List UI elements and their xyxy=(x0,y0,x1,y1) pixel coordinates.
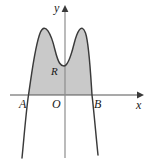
figure-canvas xyxy=(0,0,153,163)
y-axis-arrow-icon xyxy=(62,5,69,12)
region-label-r: R xyxy=(51,66,58,77)
math-figure-region-r: y x A O B R xyxy=(0,0,153,163)
point-label-b: B xyxy=(94,98,101,110)
x-axis-label: x xyxy=(136,99,141,111)
origin-label: O xyxy=(52,98,61,110)
point-label-a: A xyxy=(19,98,26,110)
y-axis-label: y xyxy=(54,2,59,14)
